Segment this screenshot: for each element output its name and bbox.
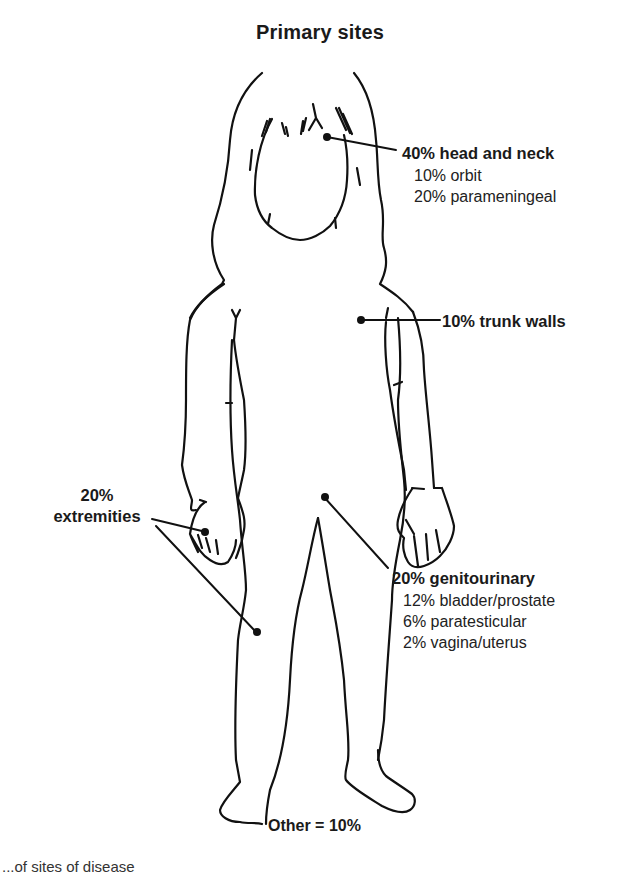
extremities-label: extremities	[38, 508, 156, 525]
neck-ticks	[268, 214, 336, 228]
body-outline-left	[182, 284, 224, 510]
leader-genitourinary	[324, 497, 388, 568]
genitourinary-label-group: 20% genitourinary 12% bladder/prostate 6…	[392, 570, 555, 651]
parameningeal-sublabel: 20% parameningeal	[414, 189, 556, 205]
right-torso-side	[378, 318, 405, 760]
diagram-title: Primary sites	[0, 22, 640, 42]
head-neck-label-group: 40% head and neck 10% orbit 20% parameni…	[402, 145, 556, 205]
extremities-label-group: 20% extremities	[38, 487, 156, 524]
hair-outline-left	[190, 73, 262, 318]
hair-strands	[250, 104, 360, 185]
other-label: Other = 10%	[268, 818, 361, 834]
head-neck-label: 40% head and neck	[402, 145, 556, 162]
right-inner-arm	[385, 308, 406, 490]
left-torso-side	[220, 340, 262, 824]
figure-caption-clipped: ...of sites of disease	[2, 858, 135, 875]
right-leg-inner	[318, 518, 415, 812]
leader-head-neck	[327, 137, 396, 150]
paratesticular-sublabel: 6% paratesticular	[403, 614, 555, 630]
body-outline-right	[413, 312, 434, 488]
site-dot-head	[323, 133, 331, 141]
site-dot-genitourinary	[321, 493, 329, 501]
left-leg-inner	[266, 518, 318, 824]
trunk-walls-label: 10% trunk walls	[442, 313, 566, 330]
vagina-uterus-sublabel: 2% vagina/uterus	[403, 635, 555, 651]
extremities-percent: 20%	[38, 487, 156, 504]
right-hand	[397, 488, 454, 567]
bladder-prostate-sublabel: 12% bladder/prostate	[403, 593, 555, 609]
site-dot-hand	[201, 528, 209, 536]
site-dot-leg	[253, 628, 261, 636]
site-dot-trunk	[357, 316, 365, 324]
genitourinary-label: 20% genitourinary	[392, 570, 555, 587]
left-inner-arm	[232, 310, 246, 558]
left-hand	[190, 500, 236, 564]
orbit-sublabel: 10% orbit	[414, 168, 556, 184]
